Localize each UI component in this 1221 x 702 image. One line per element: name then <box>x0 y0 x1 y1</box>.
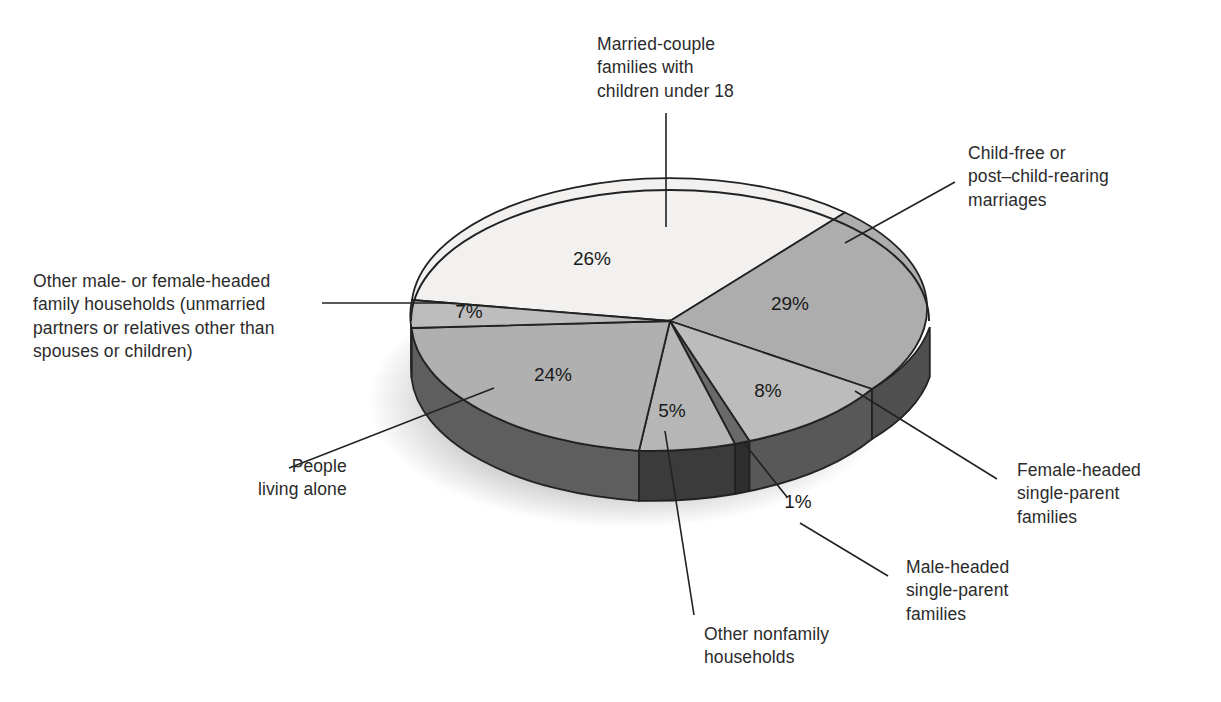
callout-other-family-households: Other male- or female-headed family hous… <box>33 270 275 363</box>
percent-label-female-headed: 8% <box>754 380 782 401</box>
side-wall-male-headed <box>735 441 750 494</box>
percent-label-people-living-alone: 24% <box>534 364 572 385</box>
percent-label-other-family-households: 7% <box>455 301 483 322</box>
percent-label-child-free-marriages: 29% <box>771 293 809 314</box>
percent-label-other-nonfamily: 5% <box>658 400 686 421</box>
callout-married-with-children: Married-couple families with children un… <box>597 33 734 103</box>
callout-child-free-marriages: Child-free or post–child-rearing marriag… <box>968 142 1109 212</box>
percent-label-male-headed: 1% <box>784 491 812 512</box>
callout-male-headed: Male-headed single-parent families <box>906 556 1009 626</box>
callout-people-living-alone: People living alone <box>258 455 347 502</box>
pie-chart-figure: 26% 29% 8% 1% 5% 24% 7% Married-couple f… <box>0 0 1221 702</box>
percent-label-married-with-children: 26% <box>573 248 611 269</box>
callout-other-nonfamily: Other nonfamily households <box>704 623 829 670</box>
leader-line-male-headed <box>800 523 888 576</box>
callout-female-headed: Female-headed single-parent families <box>1017 459 1141 529</box>
side-wall-other-nonfamily <box>639 444 735 501</box>
leader-line-child-free-marriages <box>845 182 955 243</box>
